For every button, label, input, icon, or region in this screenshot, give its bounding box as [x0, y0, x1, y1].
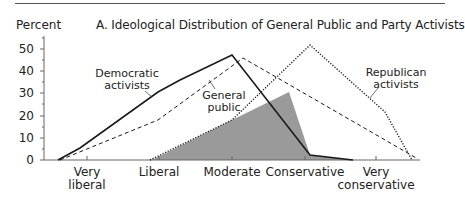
y-tick-labels: 0 10 20 30 40 50: [19, 42, 34, 167]
svg-text:Moderate: Moderate: [203, 165, 260, 179]
svg-text:Conservative: Conservative: [266, 165, 345, 179]
svg-text:10: 10: [19, 131, 34, 145]
label-democratic-activists: Democratic activists: [95, 67, 158, 97]
svg-text:0: 0: [26, 153, 34, 167]
svg-text:40: 40: [19, 64, 34, 78]
svg-text:50: 50: [19, 42, 34, 56]
y-ticks: [40, 38, 44, 160]
svg-text:Very: Very: [74, 165, 101, 179]
svg-text:activists: activists: [373, 78, 419, 91]
label-general-public: General public: [202, 80, 245, 114]
svg-text:liberal: liberal: [68, 178, 105, 192]
svg-text:activists: activists: [104, 79, 150, 92]
svg-text:20: 20: [19, 109, 34, 123]
svg-text:Liberal: Liberal: [139, 165, 180, 179]
svg-text:Very: Very: [363, 165, 390, 179]
svg-text:30: 30: [19, 86, 34, 100]
svg-text:public: public: [207, 101, 240, 114]
x-tick-labels: Very liberal Liberal Moderate Conservati…: [68, 165, 414, 192]
svg-text:conservative: conservative: [337, 178, 414, 192]
label-republican-activists: Republican activists: [366, 66, 427, 98]
